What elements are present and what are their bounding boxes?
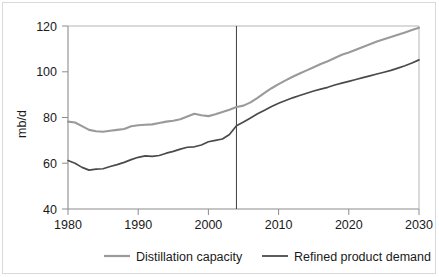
y-tick-label-60: 60 <box>43 157 57 171</box>
legend-label-distillation-capacity: Distillation capacity <box>136 250 243 264</box>
y-tick-label-100: 100 <box>36 65 57 79</box>
y-axis-title: mb/d <box>15 110 29 138</box>
x-axis-ticks <box>68 209 419 215</box>
chart-figure: 120 100 80 60 40 1980 1990 2000 2010 202… <box>0 0 439 277</box>
x-tick-label-1990: 1990 <box>124 218 152 232</box>
x-tick-label-2020: 2020 <box>335 218 363 232</box>
chart-legend: Distillation capacity Refined product de… <box>104 250 431 264</box>
y-tick-label-40: 40 <box>43 203 57 217</box>
y-tick-label-80: 80 <box>43 111 57 125</box>
x-tick-label-1980: 1980 <box>54 218 82 232</box>
x-tick-label-2030: 2030 <box>405 218 433 232</box>
line-chart: 120 100 80 60 40 1980 1990 2000 2010 202… <box>0 0 439 277</box>
y-tick-label-120: 120 <box>36 20 57 34</box>
legend-label-refined-product-demand: Refined product demand <box>294 250 431 264</box>
plot-background <box>68 26 419 209</box>
y-axis-ticks <box>62 26 68 209</box>
x-tick-label-2010: 2010 <box>265 218 293 232</box>
x-tick-label-2000: 2000 <box>194 218 222 232</box>
